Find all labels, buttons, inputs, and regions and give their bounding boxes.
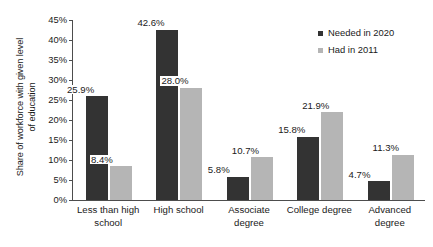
- y-axis-tick-labels: 0%5%10%15%20%25%30%35%40%45%: [34, 0, 67, 247]
- x-axis-category-label-line: Advanced: [347, 204, 433, 217]
- y-axis-tick-label: 5%: [35, 175, 67, 184]
- y-axis-tick-label: 25%: [35, 95, 67, 104]
- y-axis-tick-label: 15%: [35, 135, 67, 144]
- bar-had-2011: [180, 88, 202, 200]
- bar-value-label: 15.8%: [277, 125, 306, 135]
- y-axis-tick-label: 0%: [35, 195, 67, 204]
- x-axis-category-label: Advanceddegree: [347, 204, 433, 229]
- bar-needed-2020: [368, 181, 390, 200]
- bar-value-label: 42.6%: [136, 18, 165, 28]
- bar-value-label: 8.4%: [90, 155, 114, 165]
- legend-item-label: Needed in 2020: [328, 28, 394, 37]
- bar-value-label: 10.7%: [231, 146, 260, 156]
- x-axis-category-label-line: degree: [347, 217, 433, 230]
- y-axis-tick-label: 20%: [35, 115, 67, 124]
- y-axis-tick-label: 35%: [35, 55, 67, 64]
- x-axis-line: [72, 200, 425, 201]
- legend-item-label: Had in 2011: [328, 45, 378, 54]
- bar-needed-2020: [227, 177, 249, 200]
- y-axis-tick-label: 45%: [35, 15, 67, 24]
- bar-had-2011: [321, 112, 343, 200]
- bar-group: 5.8%10.7%: [214, 20, 284, 200]
- bar-group: 42.6%28.0%: [143, 20, 213, 200]
- y-axis-tick-label: 40%: [35, 35, 67, 44]
- bar-value-label: 5.8%: [207, 165, 231, 175]
- x-axis-category-label-line: degree: [206, 217, 292, 230]
- bar-had-2011: [110, 166, 132, 200]
- bar-needed-2020: [156, 30, 178, 200]
- legend-swatch-icon: [318, 31, 323, 36]
- legend-item[interactable]: Had in 2011: [318, 43, 394, 57]
- bar-needed-2020: [297, 137, 319, 200]
- bar-value-label: 11.3%: [372, 143, 401, 153]
- bar-value-label: 28.0%: [160, 76, 189, 86]
- bar-chart: Share of workforce with given level of e…: [0, 0, 433, 247]
- x-axis-category-labels: Less than highschoolHigh schoolAssociate…: [73, 204, 425, 247]
- chart-legend: Needed in 2020Had in 2011: [318, 26, 394, 60]
- bar-value-label: 4.7%: [348, 170, 372, 180]
- y-axis-title-line-1: Share of workforce with given level: [15, 12, 27, 202]
- legend-item[interactable]: Needed in 2020: [318, 26, 394, 40]
- bar-had-2011: [392, 155, 414, 200]
- legend-swatch-icon: [318, 48, 323, 53]
- bar-group: 25.9%8.4%: [73, 20, 143, 200]
- y-axis-tick-label: 10%: [35, 155, 67, 164]
- bar-value-label: 25.9%: [66, 85, 95, 95]
- x-axis-category-label-line: school: [65, 217, 151, 230]
- bar-had-2011: [251, 157, 273, 200]
- bar-value-label: 21.9%: [301, 101, 330, 111]
- y-axis-tick-label: 30%: [35, 75, 67, 84]
- bar-needed-2020: [86, 96, 108, 200]
